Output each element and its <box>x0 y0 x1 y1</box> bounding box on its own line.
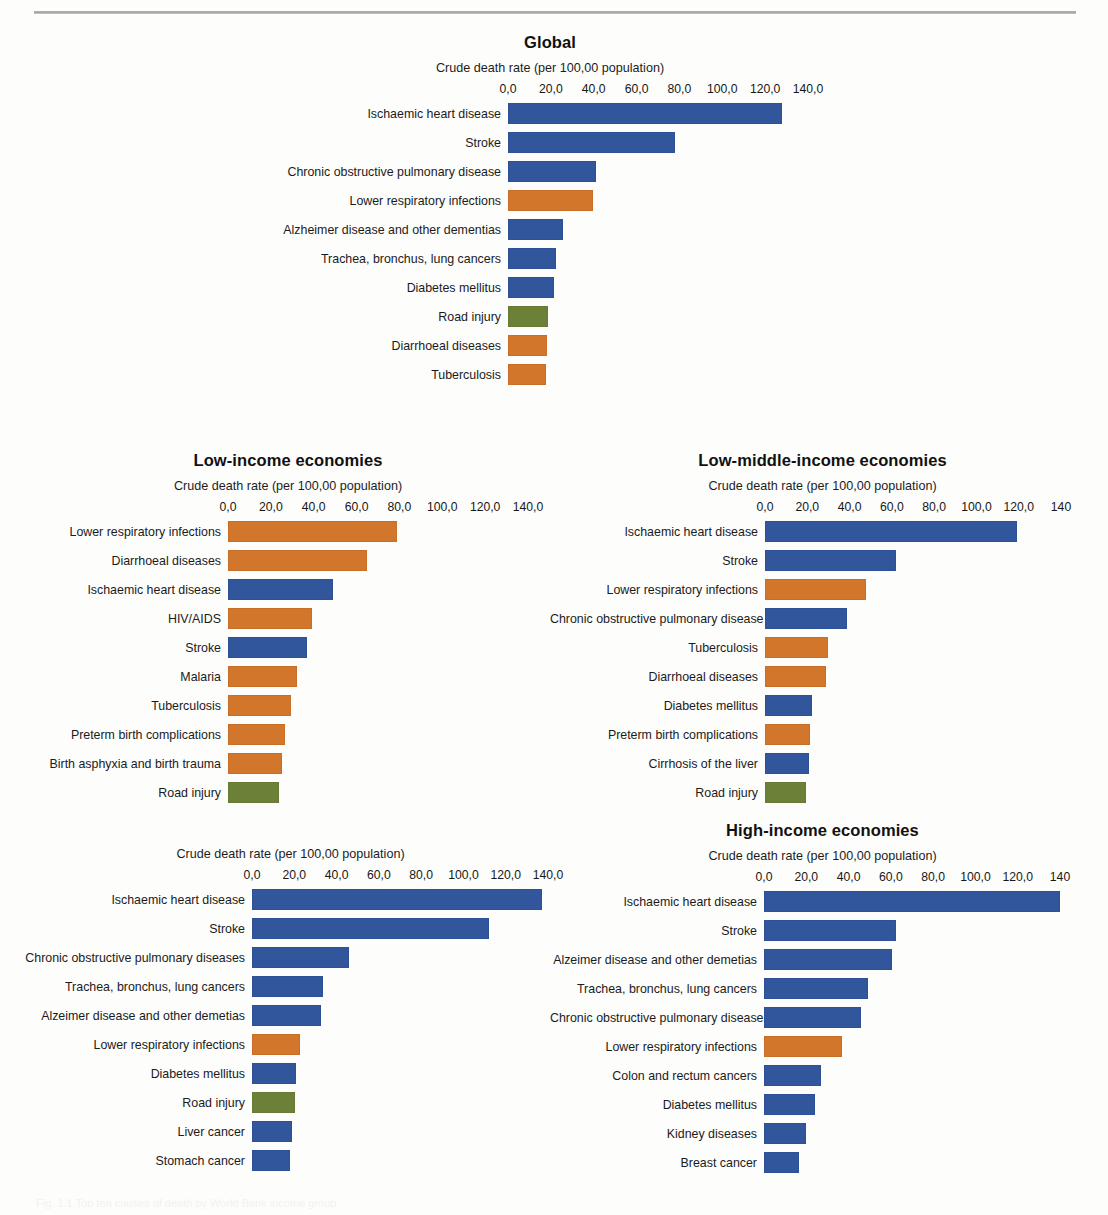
x-tick-label: 80,0 <box>922 500 946 514</box>
bar-orange <box>508 364 546 385</box>
plot-area-low-middle-income: 0,020,040,060,080,0100,0120,0140 Ischaem… <box>550 500 1095 807</box>
bar-orange <box>765 637 828 658</box>
bar-orange <box>228 724 285 745</box>
bar-row: Preterm birth complications <box>18 720 558 749</box>
bar-green <box>508 306 548 327</box>
bar-row: Diarrhoeal diseases <box>550 662 1095 691</box>
bar-category-label: Alzeimer disease and other demetias <box>18 1009 252 1023</box>
bar-orange <box>508 190 593 211</box>
bar-row: Diabetes mellitus <box>240 273 860 302</box>
bar-track <box>764 1032 1095 1061</box>
bar-blue <box>252 1121 292 1142</box>
bar-track <box>228 691 558 720</box>
bar-blue <box>228 579 333 600</box>
bar-category-label: Colon and rectum cancers <box>550 1069 764 1083</box>
bar-row: Colon and rectum cancers <box>550 1061 1095 1090</box>
bar-row: Alzeimer disease and other demetias <box>550 945 1095 974</box>
x-tick-label: 60,0 <box>625 82 649 96</box>
x-tick-label: 120,0 <box>750 82 781 96</box>
bar-track <box>508 99 860 128</box>
bar-row: Stroke <box>18 633 558 662</box>
bar-category-label: Preterm birth complications <box>18 728 228 742</box>
bar-track <box>252 1001 563 1030</box>
bar-blue <box>508 161 596 182</box>
bar-row: Road injury <box>18 1088 563 1117</box>
bar-blue <box>508 248 556 269</box>
bar-row: Road injury <box>550 778 1095 807</box>
bar-category-label: HIV/AIDS <box>18 612 228 626</box>
x-axis-ticks-low-middle-income: 0,020,040,060,080,0100,0120,0140 <box>550 500 1095 517</box>
bar-category-label: Lower respiratory infections <box>240 194 508 208</box>
bar-blue <box>252 889 542 910</box>
chart-global: Global Crude death rate (per 100,00 popu… <box>240 32 860 389</box>
bar-row: Trachea, bronchus, lung cancers <box>18 972 563 1001</box>
plot-area-low-income: 0,020,040,060,080,0100,0120,0140,0 Lower… <box>18 500 558 807</box>
x-tick-label: 60,0 <box>345 500 369 514</box>
bar-track <box>764 887 1095 916</box>
bar-rows-global: Ischaemic heart diseaseStrokeChronic obs… <box>240 99 860 389</box>
bar-orange <box>228 550 367 571</box>
x-tick-label: 20,0 <box>259 500 283 514</box>
bar-row: Diarrhoeal diseases <box>240 331 860 360</box>
axis-title-low-income: Crude death rate (per 100,00 population) <box>18 478 558 494</box>
x-tick-label: 40,0 <box>325 868 349 882</box>
bar-track <box>764 1061 1095 1090</box>
bar-track <box>252 1117 563 1146</box>
bar-category-label: Ischaemic heart disease <box>550 525 765 539</box>
figure-page: Global Crude death rate (per 100,00 popu… <box>0 0 1108 1215</box>
bar-blue <box>764 1152 799 1173</box>
bar-track <box>508 360 860 389</box>
x-tick-label: 60,0 <box>367 868 391 882</box>
bar-track <box>228 778 558 807</box>
bar-blue <box>764 920 896 941</box>
bar-blue <box>764 1094 815 1115</box>
bar-track <box>508 128 860 157</box>
x-tick-label: 0,0 <box>756 870 773 884</box>
bar-track <box>228 604 558 633</box>
x-tick-label: 120,0 <box>490 868 521 882</box>
bar-blue <box>508 103 782 124</box>
bar-row: Chronic obstructive pulmonary diseases <box>18 943 563 972</box>
bar-row: Stomach cancer <box>18 1146 563 1175</box>
x-tick-label: 60,0 <box>880 500 904 514</box>
bar-category-label: Diabetes mellitus <box>240 281 508 295</box>
bar-category-label: Birth asphyxia and birth trauma <box>18 757 228 771</box>
bar-row: Preterm birth complications <box>550 720 1095 749</box>
bar-category-label: Trachea, bronchus, lung cancers <box>18 980 252 994</box>
bar-track <box>252 1146 563 1175</box>
bar-category-label: Breast cancer <box>550 1156 764 1170</box>
bar-row: Lower respiratory infections <box>550 1032 1095 1061</box>
x-tick-label: 80,0 <box>409 868 433 882</box>
bar-rows-low-middle-income: Ischaemic heart diseaseStrokeLower respi… <box>550 517 1095 807</box>
bar-category-label: Stroke <box>550 924 764 938</box>
bar-blue <box>764 1123 806 1144</box>
bar-category-label: Trachea, bronchus, lung cancers <box>240 252 508 266</box>
bar-category-label: Lower respiratory infections <box>18 1038 252 1052</box>
bar-green <box>228 782 279 803</box>
x-tick-label: 140 <box>1051 500 1071 514</box>
x-tick-label: 20,0 <box>795 500 819 514</box>
bar-category-label: Trachea, bronchus, lung cancers <box>550 982 764 996</box>
bar-row: Ischaemic heart disease <box>550 887 1095 916</box>
bar-blue <box>765 695 812 716</box>
x-tick-label: 40,0 <box>302 500 326 514</box>
bar-blue <box>252 976 323 997</box>
bar-green <box>252 1092 295 1113</box>
bar-category-label: Lower respiratory infections <box>550 583 765 597</box>
x-tick-label: 100,0 <box>707 82 738 96</box>
bar-track <box>765 662 1095 691</box>
bar-row: Ischaemic heart disease <box>18 575 558 604</box>
bar-track <box>764 945 1095 974</box>
figure-caption-cutoff: Fig. 1.1 Top ten causes of death by Worl… <box>36 1196 1076 1210</box>
bar-category-label: Diabetes mellitus <box>550 699 765 713</box>
bar-category-label: Lower respiratory infections <box>18 525 228 539</box>
bar-track <box>764 974 1095 1003</box>
bar-orange <box>228 521 397 542</box>
bar-blue <box>765 608 847 629</box>
x-tick-label: 20,0 <box>794 870 818 884</box>
bar-row: Road injury <box>240 302 860 331</box>
bar-category-label: Diabetes mellitus <box>18 1067 252 1081</box>
axis-title-upper-middle-income: Crude death rate (per 100,00 population) <box>18 846 563 862</box>
bar-row: Road injury <box>18 778 558 807</box>
bar-track <box>765 778 1095 807</box>
